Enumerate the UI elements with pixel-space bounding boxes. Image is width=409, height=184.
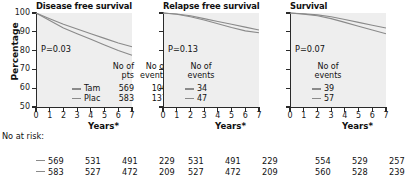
y-tick-label: 100 (10, 9, 30, 17)
legend-series-name: Tam (84, 84, 106, 93)
legend: No of events 34 47 (185, 62, 217, 103)
legend-header-pts-2: pts (106, 71, 134, 80)
no-at-risk-row: 531491229 (188, 155, 289, 166)
no-at-risk-row: 554529257 (315, 155, 409, 166)
legend-item: Plac 583 137 (72, 94, 167, 103)
legend-series-events: 34 (197, 84, 217, 93)
no-at-risk-table-relapse-free: 531491229527472209 (188, 155, 289, 177)
no-at-risk-value: 472 (122, 167, 149, 177)
panel-survival: Survival 01234567 P=0.07 No of events 39… (282, 0, 409, 128)
legend: No of No of pts events Tam 569 106 Plac … (72, 62, 167, 103)
legend-series-events: 39 (324, 84, 344, 93)
no-at-risk-value: 528 (352, 167, 379, 177)
legend-series-pts: 583 (106, 94, 134, 103)
no-at-risk-value: 229 (159, 156, 186, 166)
no-at-risk-value: 239 (389, 167, 409, 177)
legend-item: 57 (312, 94, 344, 103)
x-axis-title: Years* (88, 121, 119, 131)
line-swatch-icon (72, 88, 81, 89)
no-at-risk-value: 527 (188, 167, 215, 177)
legend-header-events-1: No of (317, 62, 338, 71)
line-swatch-icon (312, 98, 321, 99)
x-axis-title: Years* (342, 121, 373, 131)
legend-item: 34 (185, 84, 217, 93)
y-tick-label: 70 (10, 65, 30, 73)
legend-item: 39 (312, 84, 344, 93)
no-at-risk-value: 491 (225, 156, 252, 166)
line-swatch-icon (36, 171, 45, 172)
y-tick-label: 60 (10, 84, 30, 92)
no-at-risk-value: 229 (262, 156, 289, 166)
legend-header-row-1: No of (312, 62, 344, 71)
line-swatch-icon (185, 98, 194, 99)
legend-header-events-1: No of (190, 62, 211, 71)
y-tick-label: 90 (10, 28, 30, 36)
survival-curve-plac (290, 13, 386, 34)
no-at-risk-value: 583 (48, 167, 75, 177)
legend-series-events: 47 (197, 94, 217, 103)
legend-header-row-2: pts events (72, 71, 167, 80)
no-at-risk-value: 531 (188, 156, 215, 166)
no-at-risk-value: 569 (48, 156, 75, 166)
legend-header-pts-1: No of (106, 62, 134, 71)
legend-item: Tam 569 106 (72, 84, 167, 93)
no-at-risk-label: No at risk: (2, 131, 44, 141)
no-at-risk-value: 491 (122, 156, 149, 166)
line-swatch-icon (312, 88, 321, 89)
legend-series-events: 57 (324, 94, 344, 103)
x-axis-title: Years* (215, 121, 246, 131)
legend-header-row-1: No of (185, 62, 217, 71)
line-swatch-icon (36, 160, 45, 161)
no-at-risk-value: 554 (315, 156, 342, 166)
no-at-risk-value: 209 (159, 167, 186, 177)
no-at-risk-value: 529 (352, 156, 379, 166)
no-at-risk-row: 527472209 (188, 166, 289, 177)
no-at-risk-row: 560528239 (315, 166, 409, 177)
line-swatch-icon (185, 88, 194, 89)
no-at-risk-value: 531 (85, 156, 112, 166)
legend-series-name: Plac (84, 94, 106, 103)
legend-item: 47 (185, 94, 217, 103)
legend-header-events-2: events (315, 71, 342, 80)
p-value-label: P=0.07 (295, 44, 325, 54)
panel-relapse-free-survival: Relapse free survival 01234567 P=0.13 No… (155, 0, 292, 128)
no-at-risk-row: 569531491229 (36, 155, 186, 166)
legend-header-row-2: events (312, 71, 344, 80)
legend-series-pts: 569 (106, 84, 134, 93)
no-at-risk-value: 209 (262, 167, 289, 177)
no-at-risk-value: 527 (85, 167, 112, 177)
y-tick-label: 50 (10, 103, 30, 111)
survival-curves (155, 0, 292, 128)
line-swatch-icon (72, 98, 81, 99)
survival-curve-tam (36, 13, 132, 47)
survival-curves (282, 0, 409, 128)
y-tick-label: 80 (10, 47, 30, 55)
legend: No of events 39 57 (312, 62, 344, 103)
p-value-label: P=0.03 (41, 44, 71, 54)
no-at-risk-row: 583527472209 (36, 166, 186, 177)
no-at-risk-value: 560 (315, 167, 342, 177)
no-at-risk-value: 257 (389, 156, 409, 166)
survival-curve-plac (163, 13, 259, 33)
legend-header-events-2: events (188, 71, 215, 80)
legend-header-row-1: No of No of (72, 62, 167, 71)
p-value-label: P=0.13 (168, 44, 198, 54)
no-at-risk-value: 472 (225, 167, 252, 177)
legend-header-row-2: events (185, 71, 217, 80)
panel-disease-free-survival: Disease free survival 01234567 P=0.03 No… (28, 0, 165, 128)
no-at-risk-table-disease-free: 569531491229583527472209 (36, 155, 186, 177)
no-at-risk-table-survival: 554529257560528239 (315, 155, 409, 177)
